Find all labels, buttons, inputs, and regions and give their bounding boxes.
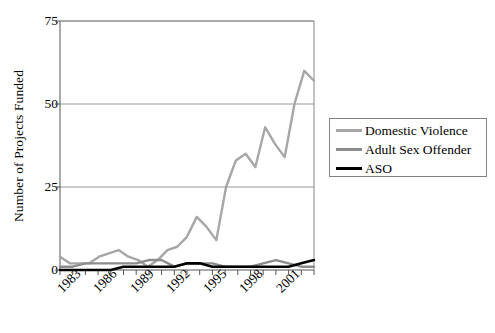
chart-figure: Number of Projects Funded 75 50 25 0 198… [0,0,495,333]
legend-swatch-aso [336,167,362,170]
legend-item-adult-sex-offender[interactable]: Adult Sex Offender [330,140,471,159]
legend-item-aso[interactable]: ASO [330,159,392,178]
y-tick-marks [55,21,60,270]
legend-label-domestic-violence: Domestic Violence [365,124,468,138]
gridlines [60,21,314,187]
series-line-aso [60,260,314,270]
legend-label-adult-sex-offender: Adult Sex Offender [365,143,471,157]
series-line-domestic-violence [60,71,314,267]
legend-swatch-domestic-violence [336,129,362,132]
legend-swatch-adult-sex-offender [336,148,362,151]
data-series-group [60,71,314,270]
chart-legend: Domestic Violence Adult Sex Offender ASO [329,118,487,177]
legend-label-aso: ASO [365,162,392,176]
legend-item-domestic-violence[interactable]: Domestic Violence [330,121,468,140]
